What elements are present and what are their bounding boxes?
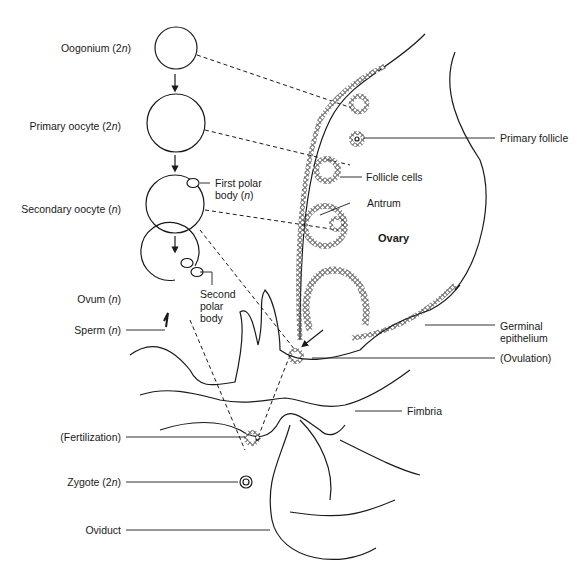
label-follicle-cells: Follicle cells xyxy=(366,171,423,183)
oogonium-cell xyxy=(155,27,197,69)
label-ovum: Ovum (n) xyxy=(77,293,121,305)
label-secondary-oocyte: Secondary oocyte (n) xyxy=(21,203,121,215)
label-primary-follicle: Primary follicle xyxy=(500,132,568,144)
label-oviduct: Oviduct xyxy=(85,524,121,536)
label-fertilization: (Fertilization) xyxy=(60,431,121,443)
first-polar-body xyxy=(187,179,199,188)
label-antrum: Antrum xyxy=(367,197,401,209)
primary-oocyte-cell xyxy=(147,94,205,152)
label-germinal-epithelium: Germinal epithelium xyxy=(500,320,548,344)
label-oogonium: Oogonium (2n) xyxy=(61,42,131,54)
label-first-polar-body: First polar body (n) xyxy=(215,177,262,201)
oogenesis-diagram: Oogonium (2n) Primary oocyte (2n) Second… xyxy=(0,0,586,574)
label-second-polar-body: Second polar body xyxy=(200,288,236,324)
label-zygote: Zygote (2n) xyxy=(67,476,121,488)
label-fimbria: Fimbria xyxy=(407,405,442,417)
label-ovulation: (Ovulation) xyxy=(500,352,551,364)
label-sperm: Sperm (n) xyxy=(74,324,121,336)
label-ovary: Ovary xyxy=(378,232,409,244)
label-primary-oocyte: Primary oocyte (2n) xyxy=(29,120,121,132)
ovum-cell xyxy=(141,222,199,280)
